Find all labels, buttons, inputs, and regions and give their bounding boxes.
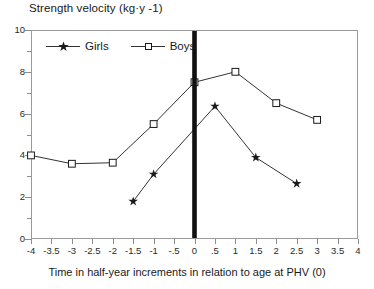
series-girls — [128, 101, 301, 205]
data-point-square — [273, 100, 280, 107]
x-axis-tick — [51, 239, 52, 244]
series-line — [31, 72, 317, 164]
x-axis-tick — [195, 239, 196, 244]
data-point-star — [210, 101, 220, 110]
legend-item-girls: Girls — [46, 40, 109, 52]
legend-item-boys: Boys — [131, 40, 196, 52]
x-axis-tick — [72, 239, 73, 244]
chart-title: Strength velocity (kg·y -1) — [29, 2, 163, 14]
y-axis-tick-label: 10 — [3, 24, 25, 35]
x-axis-tick — [92, 239, 93, 244]
x-axis-caption: Time in half-year increments in relation… — [0, 266, 374, 278]
plot-canvas — [31, 30, 358, 239]
y-axis-tick-label: 6 — [3, 108, 25, 119]
data-point-star — [292, 179, 302, 188]
x-axis-tick — [174, 239, 175, 244]
x-axis-tick-label: 4 — [345, 245, 371, 256]
phv-marker-bar — [192, 31, 197, 238]
legend-label-boys: Boys — [170, 40, 196, 52]
data-point-square — [109, 159, 116, 166]
x-axis-tick — [338, 239, 339, 244]
x-axis-tick — [256, 239, 257, 244]
legend-label-girls: Girls — [85, 40, 109, 52]
x-axis-tick — [358, 239, 359, 244]
x-axis-tick — [276, 239, 277, 244]
y-axis-tick-label: 8 — [3, 66, 25, 77]
y-axis-tick-label: 2 — [3, 191, 25, 202]
data-point-square — [150, 121, 157, 128]
series-boys — [28, 68, 321, 167]
data-point-square — [314, 116, 321, 123]
chart-figure: Strength velocity (kg·y -1) 0246810 -4-3… — [0, 0, 374, 289]
data-point-square — [28, 152, 35, 159]
x-axis-tick — [133, 239, 134, 244]
x-axis-tick — [235, 239, 236, 244]
data-point-square — [68, 160, 75, 167]
y-axis-tick-label: 4 — [3, 149, 25, 160]
data-point-square — [232, 68, 239, 75]
x-axis-tick — [215, 239, 216, 244]
x-axis-tick — [154, 239, 155, 244]
chart-legend: Girls Boys — [46, 40, 195, 52]
x-axis-tick — [31, 239, 32, 244]
x-axis-tick — [113, 239, 114, 244]
square-icon — [131, 40, 165, 52]
y-axis-tick-label: 0 — [3, 233, 25, 244]
x-axis-tick — [317, 239, 318, 244]
star-icon — [46, 40, 80, 52]
x-axis-tick — [297, 239, 298, 244]
